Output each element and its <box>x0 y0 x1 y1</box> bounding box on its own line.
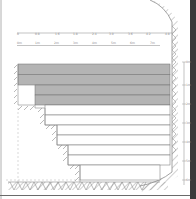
svg-text:2m: 2m <box>54 41 59 45</box>
ground-hatching <box>8 182 168 190</box>
svg-text:0.8: 0.8 <box>35 32 40 36</box>
svg-text:2m: 2m <box>186 102 191 106</box>
band-layer-3 <box>35 85 170 95</box>
svg-text:4m: 4m <box>92 41 97 45</box>
band-layer-11 <box>80 165 160 180</box>
svg-text:7m: 7m <box>150 41 155 45</box>
svg-text:6m: 6m <box>186 178 191 182</box>
svg-text:0m: 0m <box>186 60 191 64</box>
svg-text:1m: 1m <box>35 41 40 45</box>
svg-text:5m: 5m <box>111 41 116 45</box>
svg-text:3m: 3m <box>186 121 191 125</box>
band-layer-4 <box>35 95 170 105</box>
svg-text:6m: 6m <box>130 41 135 45</box>
band-layer-9 <box>68 145 170 155</box>
svg-text:0: 0 <box>17 32 19 36</box>
band-layer-5 <box>45 105 170 115</box>
shaded-layers <box>18 64 170 105</box>
band-layer-10 <box>68 155 170 165</box>
band-layer-7 <box>57 125 170 135</box>
band-layer-6 <box>45 115 170 125</box>
section-drawing: 0 0.8 1.6 1.8 2.4 3.0 3.6 4.2 4.8 0m 1m … <box>0 0 196 199</box>
svg-text:4.8: 4.8 <box>165 32 170 36</box>
svg-text:1.8: 1.8 <box>73 32 78 36</box>
right-border <box>190 0 196 199</box>
svg-text:3.0: 3.0 <box>109 32 114 36</box>
svg-text:1m: 1m <box>186 83 191 87</box>
band-layer-1 <box>18 64 170 75</box>
svg-text:3m: 3m <box>73 41 78 45</box>
svg-text:0m: 0m <box>17 41 22 45</box>
band-layer-8 <box>57 135 170 145</box>
svg-text:4m: 4m <box>186 140 191 144</box>
svg-text:4.2: 4.2 <box>146 32 151 36</box>
band-layer-2 <box>18 75 170 86</box>
svg-text:1.6: 1.6 <box>55 32 60 36</box>
svg-text:2.4: 2.4 <box>92 32 97 36</box>
svg-text:5m: 5m <box>186 159 191 163</box>
svg-text:3.6: 3.6 <box>128 32 133 36</box>
